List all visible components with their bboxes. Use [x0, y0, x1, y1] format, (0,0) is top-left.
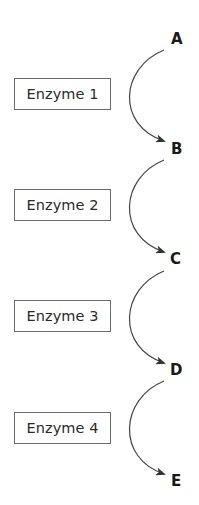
metabolite-b: B	[171, 142, 182, 157]
enzyme-label-2: Enzyme 2	[26, 197, 98, 213]
reaction-arrow-1	[129, 50, 164, 141]
enzyme-label-3: Enzyme 3	[26, 308, 98, 324]
metabolic-pathway-diagram: A B C D E Enzyme 1 Enzyme 2 Enzyme 3 Enz…	[0, 0, 199, 505]
enzyme-box-2: Enzyme 2	[14, 189, 111, 221]
enzyme-label-4: Enzyme 4	[26, 420, 98, 436]
metabolite-d: D	[170, 363, 182, 378]
reaction-arrow-4	[129, 381, 164, 474]
enzyme-box-3: Enzyme 3	[14, 300, 111, 332]
reaction-arrow-3	[129, 271, 164, 363]
metabolite-a: A	[171, 32, 183, 47]
reaction-arrow-2	[129, 160, 164, 252]
metabolite-c: C	[170, 252, 181, 267]
enzyme-box-1: Enzyme 1	[14, 78, 111, 110]
enzyme-box-4: Enzyme 4	[14, 412, 111, 444]
metabolite-e: E	[171, 474, 181, 489]
enzyme-label-1: Enzyme 1	[26, 86, 98, 102]
